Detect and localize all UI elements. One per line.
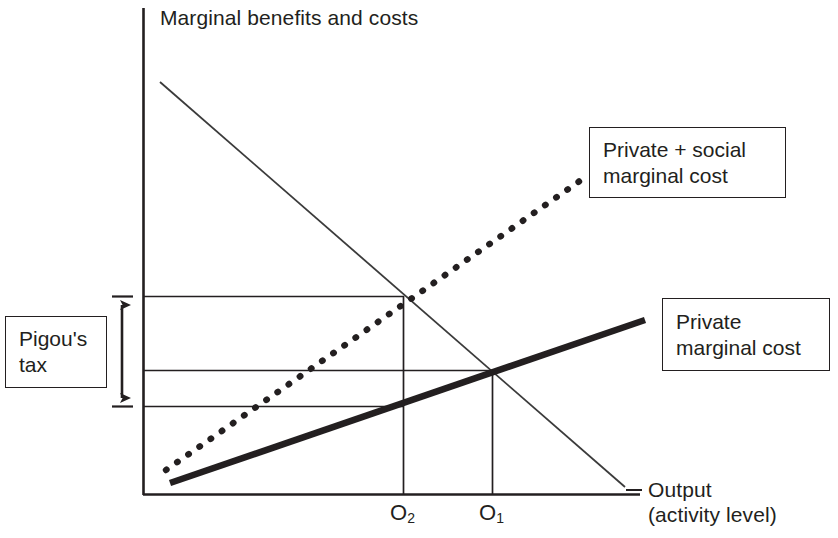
- pigou-tax-label-box: Pigou's tax: [5, 316, 107, 388]
- marginal-benefit-curve: [160, 82, 625, 487]
- x-tick-o2: O2: [390, 500, 415, 526]
- x-axis-title: Output (activity level): [648, 478, 777, 528]
- x-tick-o1: O1: [479, 500, 504, 526]
- legend-private-marginal-cost: Private marginal cost: [662, 298, 830, 371]
- x-tick-o1-base: O: [479, 500, 496, 525]
- x-tick-o2-base: O: [390, 500, 407, 525]
- social-marginal-cost-curve: [166, 178, 584, 470]
- y-axis-title: Marginal benefits and costs: [160, 6, 418, 31]
- x-tick-o2-subscript: 2: [407, 510, 415, 526]
- x-tick-o1-subscript: 1: [496, 510, 504, 526]
- plot-area: [0, 0, 838, 538]
- legend-social-marginal-cost: Private + social marginal cost: [589, 127, 786, 198]
- private-marginal-cost-curve: [170, 320, 645, 483]
- diagram-canvas: Marginal benefits and costs Output (acti…: [0, 0, 838, 538]
